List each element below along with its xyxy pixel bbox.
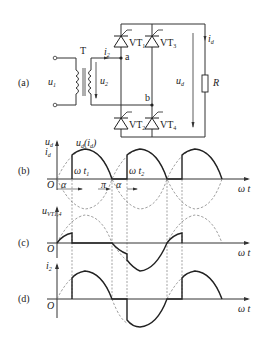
- svg-text:i2: i2: [46, 260, 52, 272]
- ud-label: ud: [176, 75, 185, 87]
- svg-text:VT2: VT2: [129, 119, 145, 131]
- resistor-label: R: [212, 77, 219, 88]
- svg-text:O: O: [47, 243, 54, 254]
- svg-text:VT1: VT1: [129, 37, 145, 49]
- id-label: id: [208, 33, 215, 45]
- svg-text:ω t: ω t: [238, 247, 251, 258]
- rectifier-diagram: (a) T u1 u2 i2 a b: [0, 0, 268, 337]
- primary-terminal-bottom: [53, 103, 57, 107]
- secondary-coil: [89, 70, 92, 94]
- panel-label-b: (b): [18, 165, 30, 177]
- waveform-c: (c) uVT1,4 O ω t: [18, 205, 251, 271]
- svg-text:ω t1: ω t1: [74, 165, 89, 177]
- id-arrow: [204, 36, 207, 41]
- ud-waveform: [72, 149, 222, 179]
- transformer-label: T: [80, 45, 86, 56]
- panel-label-c: (c): [18, 237, 29, 249]
- i2-label: i2: [104, 46, 110, 58]
- node-b-label: b: [145, 92, 150, 103]
- uvt-waveform: [57, 233, 182, 271]
- thyristor-vt1: VT1: [114, 30, 145, 49]
- svg-text:ω t2: ω t2: [129, 165, 144, 177]
- primary-wires: [57, 58, 76, 105]
- node-a-label: a: [125, 51, 130, 62]
- thyristor-vt3: VT3: [145, 30, 176, 49]
- circuit-panel: (a) T u1 u2 i2 a b: [18, 24, 219, 137]
- primary-voltage-label: u1: [48, 76, 56, 88]
- resistor-r: [202, 75, 208, 92]
- thyristor-vt4: VT4: [145, 112, 176, 131]
- waveform-d: (d) i2 O ω t: [18, 260, 251, 327]
- svg-text:ω t: ω t: [238, 183, 251, 194]
- node-b: [150, 103, 153, 106]
- svg-text:ω t: ω t: [238, 303, 251, 314]
- thyristor-vt2: VT2: [114, 112, 145, 131]
- svg-text:VT4: VT4: [160, 119, 176, 131]
- svg-text:VT3: VT3: [160, 37, 176, 49]
- ud-curve-label: ud(id): [76, 137, 97, 149]
- panel-label-d: (d): [18, 293, 30, 305]
- svg-text:O: O: [47, 179, 54, 190]
- svg-text:α: α: [61, 179, 67, 190]
- svg-text:uVT1,4: uVT1,4: [42, 205, 62, 217]
- svg-text:O: O: [47, 300, 54, 311]
- svg-text:α: α: [116, 179, 122, 190]
- primary-coil: [76, 70, 79, 94]
- panel-label-a: (a): [18, 77, 29, 89]
- primary-terminal-top: [53, 56, 57, 60]
- waveform-b: (b) ud id ud(id) ω t1 ω t2 O α π α ω t: [18, 136, 251, 209]
- node-a: [119, 56, 122, 59]
- secondary-voltage-label: u2: [100, 75, 108, 87]
